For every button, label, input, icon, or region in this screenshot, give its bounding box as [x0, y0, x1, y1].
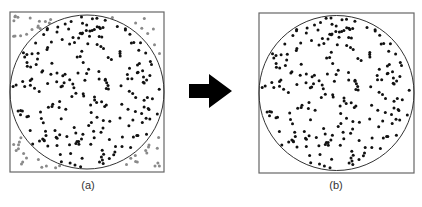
inside-point	[63, 81, 66, 84]
inside-point	[331, 32, 334, 35]
inside-point	[121, 136, 124, 139]
inside-point	[384, 97, 387, 100]
inside-point	[268, 114, 271, 117]
inside-point	[376, 74, 379, 77]
outside-point	[156, 162, 159, 165]
inside-point	[98, 35, 101, 38]
inside-point	[58, 133, 61, 136]
inside-point	[401, 98, 404, 101]
outside-point	[18, 141, 21, 144]
inside-point	[284, 64, 287, 67]
inside-point	[36, 58, 39, 61]
inside-point	[306, 26, 309, 29]
outside-point	[156, 147, 159, 150]
inside-point	[156, 113, 159, 116]
inside-point	[358, 139, 361, 142]
inside-point	[51, 103, 54, 106]
inside-point	[83, 79, 86, 82]
inside-point	[339, 104, 342, 107]
inside-point	[96, 116, 99, 119]
inside-point	[308, 101, 311, 104]
inside-point	[360, 59, 363, 62]
inside-point	[65, 135, 68, 138]
inside-point	[396, 97, 399, 100]
inside-point	[378, 34, 381, 37]
inside-point	[294, 135, 297, 138]
inside-point	[395, 134, 398, 137]
inside-point	[23, 56, 26, 59]
inside-point	[266, 111, 269, 114]
inside-point	[68, 43, 71, 46]
outside-point	[147, 146, 150, 149]
inside-point	[272, 57, 275, 60]
inside-point	[143, 99, 146, 102]
inside-point	[336, 43, 339, 46]
inside-point	[93, 95, 96, 98]
inside-point	[46, 144, 49, 147]
inside-point	[384, 111, 387, 114]
inside-point	[345, 26, 348, 29]
inside-point	[290, 139, 293, 142]
inside-point	[270, 81, 273, 84]
inside-point	[77, 36, 80, 39]
inside-point	[339, 112, 342, 115]
inside-point	[349, 132, 352, 135]
inside-point	[374, 28, 377, 31]
inside-point	[12, 85, 15, 88]
inside-point	[85, 29, 88, 32]
inside-point	[354, 88, 357, 91]
inside-point	[46, 27, 49, 30]
inside-point	[45, 134, 48, 137]
inside-point	[389, 42, 392, 45]
inside-point	[342, 137, 345, 140]
inside-point	[140, 112, 143, 115]
inside-point	[76, 140, 79, 143]
inside-point	[131, 92, 134, 95]
inside-point	[315, 136, 318, 139]
inside-point	[90, 121, 93, 124]
inside-point	[331, 23, 334, 26]
inside-point	[334, 30, 337, 33]
inside-point	[70, 95, 73, 98]
inside-point	[339, 144, 342, 147]
inside-point	[93, 99, 96, 102]
outside-point	[38, 20, 41, 23]
inside-point	[379, 147, 382, 150]
inside-point	[364, 146, 367, 149]
inside-point	[69, 152, 72, 155]
inside-point	[406, 114, 409, 117]
inside-point	[74, 132, 77, 135]
inside-point	[126, 73, 129, 76]
inside-point	[141, 69, 144, 72]
inside-point	[321, 37, 324, 40]
inside-point	[378, 91, 381, 94]
inside-point	[345, 117, 348, 120]
inside-point	[50, 41, 53, 44]
inside-point	[74, 92, 77, 95]
inside-point	[309, 161, 312, 164]
inside-point	[82, 61, 85, 64]
inside-point	[287, 91, 290, 94]
inside-point	[352, 48, 355, 51]
inside-point	[81, 31, 84, 34]
outside-point	[143, 17, 146, 20]
inside-point	[47, 106, 50, 109]
inside-point	[96, 43, 99, 46]
inside-point	[393, 100, 396, 103]
inside-point	[149, 60, 152, 63]
outside-point	[25, 157, 28, 160]
inside-point	[317, 29, 320, 32]
inside-point	[25, 53, 28, 56]
inside-point	[299, 42, 302, 45]
inside-point	[102, 162, 105, 165]
inside-point	[26, 65, 29, 68]
inside-point	[370, 146, 373, 149]
inside-point	[408, 89, 411, 92]
inside-point	[95, 101, 98, 104]
inside-point	[310, 85, 313, 88]
inside-point	[108, 138, 111, 141]
inside-point	[146, 96, 149, 99]
inside-point	[77, 143, 80, 146]
inside-point	[128, 90, 131, 93]
inside-point	[376, 78, 379, 81]
